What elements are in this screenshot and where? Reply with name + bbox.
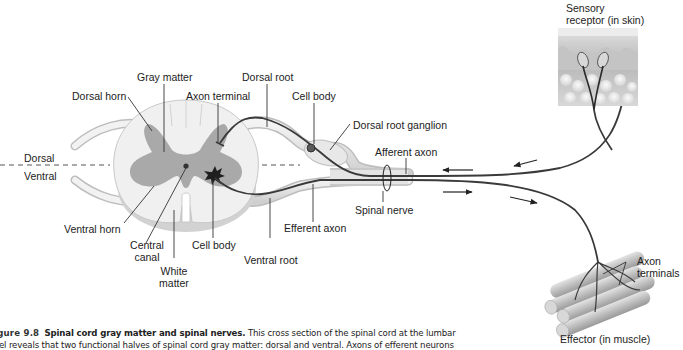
label-ventral-horn: Ventral horn (64, 223, 121, 235)
label-axon-terminals-line2: terminals (637, 267, 680, 279)
label-central-canal: Central canal (128, 239, 166, 263)
label-sensory-receptor: Sensory receptor (in skin) (566, 2, 644, 26)
label-cell-body-top: Cell body (292, 90, 336, 102)
figure-number: igure 9.8 (0, 328, 39, 338)
efferent-arrow-2 (510, 197, 537, 203)
figure-caption-body: This cross section of the spinal cord at… (248, 328, 456, 338)
label-axon-terminals: Axon terminals (637, 255, 680, 279)
sensory-cell-body (307, 144, 315, 152)
label-spinal-nerve: Spinal nerve (355, 204, 413, 216)
label-sensory-receptor-line1: Sensory (566, 2, 644, 14)
label-central-canal-line1: Central (128, 239, 166, 251)
label-effector: Effector (in muscle) (560, 333, 650, 345)
spinal-cord-cross-section (114, 100, 259, 232)
label-cell-body-bottom: Cell body (192, 239, 236, 251)
label-dorsal-root: Dorsal root (242, 71, 293, 83)
label-dorsal-root-ganglion: Dorsal root ganglion (353, 119, 447, 131)
label-dorsal: Dorsal (24, 152, 54, 164)
label-ventral: Ventral (24, 170, 57, 182)
afferent-arrow-1 (514, 160, 537, 166)
figure-caption-line2: vel reveals that two functional halves o… (0, 340, 454, 350)
label-gray-matter: Gray matter (137, 71, 192, 83)
spinal-nerve-trunk (330, 168, 408, 186)
label-central-canal-line2: canal (128, 251, 166, 263)
label-sensory-receptor-line2: receptor (in skin) (566, 14, 644, 26)
figure-title: Spinal cord gray matter and spinal nerve… (44, 328, 245, 338)
label-white-matter: White matter (155, 265, 193, 289)
label-white-matter-line1: White (155, 265, 193, 277)
label-white-matter-line2: matter (155, 277, 193, 289)
label-dorsal-horn: Dorsal horn (72, 90, 126, 102)
label-efferent-axon: Efferent axon (284, 222, 346, 234)
label-axon-terminals-line1: Axon (637, 255, 680, 267)
efferent-axon-path (215, 178, 598, 262)
label-afferent-axon: Afferent axon (375, 146, 437, 158)
skin-block (558, 28, 638, 150)
label-ventral-root: Ventral root (244, 254, 298, 266)
label-axon-terminal: Axon terminal (186, 90, 250, 102)
figure-caption-line1: igure 9.8 Spinal cord gray matter and sp… (0, 328, 456, 338)
